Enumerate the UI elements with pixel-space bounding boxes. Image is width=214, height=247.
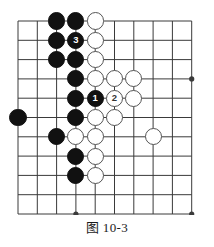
white-stone — [87, 167, 104, 184]
white-stone — [145, 128, 162, 145]
move-stone-1: 1 — [87, 90, 104, 107]
black-stone — [67, 12, 84, 29]
white-stone — [87, 32, 104, 49]
white-stone — [87, 128, 104, 145]
star-point — [189, 211, 194, 215]
white-stone — [87, 109, 104, 126]
black-stone — [48, 32, 65, 49]
white-stone — [87, 148, 104, 165]
white-stone — [87, 51, 104, 68]
move-stone-2: 2 — [106, 90, 123, 107]
black-stone — [9, 109, 26, 126]
star-point — [189, 76, 194, 81]
white-stone — [87, 12, 104, 29]
black-stone — [48, 12, 65, 29]
move-number-label: 2 — [112, 93, 117, 103]
figure-caption: 图 10-3 — [0, 217, 214, 236]
go-board: 312 — [0, 0, 214, 215]
board-grid-lines — [0, 0, 214, 215]
star-point — [73, 211, 78, 215]
move-number-label: 3 — [73, 35, 78, 45]
white-stone — [106, 109, 123, 126]
move-number-label: 1 — [93, 93, 98, 103]
go-diagram-figure: 312 图 10-3 — [0, 0, 214, 247]
white-stone — [125, 90, 142, 107]
